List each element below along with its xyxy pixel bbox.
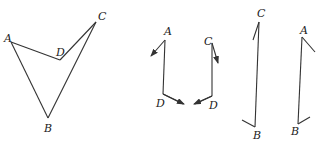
edge-DC (60, 22, 96, 60)
path-CB-tick (242, 120, 255, 127)
vertex-label-A: A (299, 24, 308, 37)
path-AB-segment (298, 37, 302, 124)
vertex-label-C: C (98, 10, 107, 23)
vertex-label-C: C (204, 35, 213, 48)
vertex-label-C: C (257, 7, 266, 20)
path-AD-segment (163, 40, 165, 94)
vertex-label-B: B (43, 122, 52, 135)
vertex-label-A: A (163, 25, 172, 38)
vertex-label-B: B (252, 129, 261, 142)
figure-layer: ABCDADCDCBAB (3, 7, 315, 142)
arrow-icon (151, 40, 165, 56)
vertex-label-D: D (155, 97, 165, 110)
vertex-label-D: D (208, 99, 218, 112)
vertex-label-D: D (55, 46, 65, 59)
geometry-diagram: ABCDADCDCBAB (0, 0, 317, 150)
vertex-label-A: A (3, 32, 12, 45)
path-AB-tick (302, 37, 315, 52)
arrow-icon (163, 94, 184, 104)
edge-CB (48, 22, 96, 118)
path-CB-segment (255, 22, 259, 127)
path-AB-tick (298, 117, 310, 124)
vertex-label-B: B (290, 125, 299, 138)
arrow-icon (212, 43, 218, 63)
